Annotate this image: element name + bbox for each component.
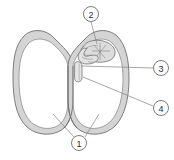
left-cotyledon <box>13 31 73 135</box>
callout-4-label: 4 <box>158 104 163 114</box>
callout-3-label: 3 <box>158 64 163 74</box>
seed-diagram-canvas: 1 2 3 4 <box>0 0 174 160</box>
callout-1[interactable]: 1 <box>72 136 87 151</box>
callout-3[interactable]: 3 <box>154 61 169 76</box>
callout-4[interactable]: 4 <box>154 101 169 116</box>
seed-diagram-figure: 1 2 3 4 <box>0 0 174 160</box>
callout-1-label: 1 <box>76 139 81 149</box>
radicle-tip <box>75 62 82 82</box>
callout-2-label: 2 <box>88 10 93 20</box>
callout-2[interactable]: 2 <box>84 7 99 22</box>
